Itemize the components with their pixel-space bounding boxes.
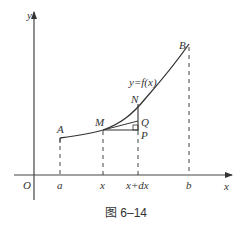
x-axis-label: x (223, 180, 229, 192)
point-A-label: A (56, 123, 64, 135)
point-M-label: M (94, 116, 105, 128)
curve-label: y=f(x) (128, 76, 157, 89)
curve-f (60, 44, 189, 138)
point-P-label: P (140, 129, 148, 141)
dashed-guides (60, 47, 189, 175)
origin-label: O (23, 179, 31, 191)
tick-a: a (57, 179, 63, 191)
calculus-diagram: y x O a x x+dx b A M N Q P B y=f(x) 图 6–… (0, 0, 236, 230)
tick-b: b (186, 179, 192, 191)
figure-6-14: y x O a x x+dx b A M N Q P B y=f(x) 图 6–… (0, 0, 236, 230)
right-angle-mark (133, 125, 138, 130)
point-Q-label: Q (141, 116, 149, 128)
tick-x: x (99, 179, 105, 191)
y-axis-label: y (26, 9, 32, 21)
point-N-label: N (130, 93, 139, 105)
figure-caption: 图 6–14 (105, 206, 147, 220)
point-B-label: B (179, 39, 186, 51)
tick-x-plus-dx: x+dx (125, 179, 149, 191)
